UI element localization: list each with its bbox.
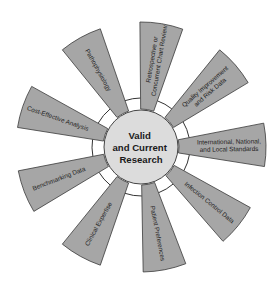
- ring-arc-segment: [125, 193, 142, 196]
- wedge-shape: [62, 29, 128, 118]
- spoke-infection: Infection Control Data: [166, 165, 250, 241]
- spoke-benchmarking: Benchmarking Data: [18, 154, 108, 211]
- center-title-line-1: Valid: [128, 130, 151, 141]
- center-title-line-3: Research: [119, 154, 162, 165]
- research-spoke-diagram: Retrospective orConcurrent Chart ReviewQ…: [0, 0, 280, 289]
- ring-arc-segment: [92, 139, 93, 156]
- wedge-shape: [18, 154, 108, 211]
- ring-arc-segment: [183, 122, 189, 138]
- ring-arc-segment: [157, 101, 171, 109]
- ring-arc-segment: [159, 184, 174, 193]
- center-title-line-2: and Current: [112, 142, 167, 153]
- ring-arc-segment: [98, 109, 110, 123]
- spoke-pathophysiology: Pathophysiology: [62, 29, 128, 118]
- center-hub: Valid and Current Research: [104, 110, 178, 184]
- spoke-retrospective: Retrospective orConcurrent Chart Review: [140, 22, 183, 111]
- spoke-label: International, National,and Local Standa…: [197, 137, 261, 153]
- spoke-cost: Cost-Effective Analysis: [18, 86, 108, 141]
- spoke-international: International, National,and Local Standa…: [178, 123, 266, 166]
- spoke-clinical: Clinical Expertise: [62, 177, 128, 266]
- ring-arc-segment: [184, 155, 190, 171]
- ring-arc-segment: [125, 98, 141, 101]
- spoke-patient: Patient Preferences: [142, 182, 186, 272]
- spoke-quality: Quality Improvementand Risk Data: [165, 50, 248, 128]
- ring-arc-segment: [99, 172, 110, 185]
- wedge-shape: [18, 86, 108, 141]
- spoke-label-line: and Local Standards: [200, 145, 259, 153]
